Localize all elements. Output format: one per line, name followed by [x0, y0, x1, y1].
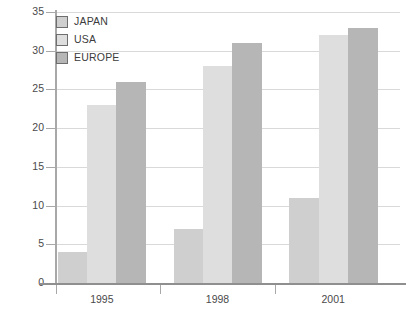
y-axis-tick-label: 20	[16, 122, 44, 133]
x-tick-mark	[160, 285, 161, 294]
legend-label-usa: USA	[74, 34, 96, 45]
legend: JAPAN USA EUROPE	[56, 13, 120, 67]
bar-chart: 05101520253035 199519982001 JAPAN USA EU…	[0, 0, 413, 315]
bar-usa-2001[interactable]	[319, 35, 349, 283]
legend-item-usa[interactable]: USA	[56, 31, 120, 48]
legend-swatch-icon-europe	[56, 52, 68, 64]
x-tick-mark-origin	[56, 285, 57, 294]
x-axis-category-label: 1998	[188, 294, 248, 305]
legend-item-europe[interactable]: EUROPE	[56, 49, 120, 66]
bar-japan-2001[interactable]	[289, 198, 319, 283]
legend-label-europe: EUROPE	[74, 52, 120, 63]
x-axis-category-label: 2001	[303, 294, 363, 305]
bar-europe-1998[interactable]	[232, 43, 262, 283]
x-axis-line	[40, 283, 406, 285]
y-axis-tick-label: 30	[16, 45, 44, 56]
bar-japan-1995[interactable]	[58, 252, 88, 283]
legend-label-japan: JAPAN	[74, 16, 108, 27]
y-axis-tick-label: 35	[16, 6, 44, 17]
bar-japan-1998[interactable]	[174, 229, 204, 283]
y-axis-tick-label: 10	[16, 200, 44, 211]
y-axis-tick-label: 15	[16, 161, 44, 172]
legend-swatch-icon-japan	[56, 16, 68, 28]
bar-usa-1998[interactable]	[203, 66, 233, 283]
bar-europe-2001[interactable]	[348, 28, 378, 284]
bar-europe-1995[interactable]	[116, 82, 146, 283]
x-axis-category-label: 1995	[72, 294, 132, 305]
y-axis-tick-label: 25	[16, 83, 44, 94]
y-axis-tick-label: 5	[16, 238, 44, 249]
x-tick-mark	[275, 285, 276, 294]
bar-usa-1995[interactable]	[87, 105, 117, 283]
legend-swatch-icon-usa	[56, 34, 68, 46]
legend-item-japan[interactable]: JAPAN	[56, 13, 120, 30]
